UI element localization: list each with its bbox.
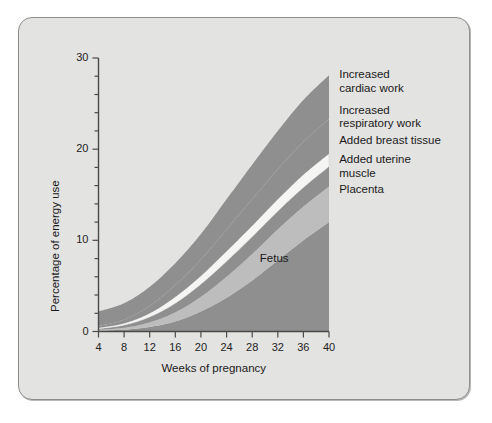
x-axis-ticks xyxy=(99,332,330,338)
y-axis-tick-label: 10 xyxy=(63,233,89,245)
x-axis-tick-label: 12 xyxy=(137,341,163,353)
figure-frame: 481216202428323640 0102030 FetusPlacenta… xyxy=(18,17,470,400)
area-bands xyxy=(99,75,330,331)
y-axis-tick-label: 30 xyxy=(63,51,89,63)
x-axis-tick-label: 8 xyxy=(111,341,137,353)
x-axis-tick-label: 36 xyxy=(290,341,316,353)
x-axis-tick-label: 20 xyxy=(188,341,214,353)
x-axis-tick-label: 24 xyxy=(214,341,240,353)
series-label: Added breast tissue xyxy=(339,134,441,148)
y-axis-title: Percentage of energy use xyxy=(49,180,61,312)
x-axis-tick-label: 40 xyxy=(316,341,342,353)
x-axis-tick-label: 4 xyxy=(86,341,112,353)
series-label: Fetus xyxy=(260,252,289,266)
series-label: Increased respiratory work xyxy=(339,104,421,131)
x-axis-tick-label: 16 xyxy=(162,341,188,353)
series-label: Added uterine muscle xyxy=(339,153,411,180)
x-axis-tick-label: 32 xyxy=(265,341,291,353)
x-axis-tick-label: 28 xyxy=(239,341,265,353)
series-label: Placenta xyxy=(339,183,384,197)
y-axis-tick-label: 0 xyxy=(63,325,89,337)
y-axis-ticks xyxy=(93,58,99,332)
y-axis-tick-label: 20 xyxy=(63,142,89,154)
series-label: Increased cardiac work xyxy=(339,68,404,95)
x-axis-title: Weeks of pregnancy xyxy=(79,362,350,374)
chart-plot-area: 481216202428323640 0102030 FetusPlacenta… xyxy=(19,18,471,401)
